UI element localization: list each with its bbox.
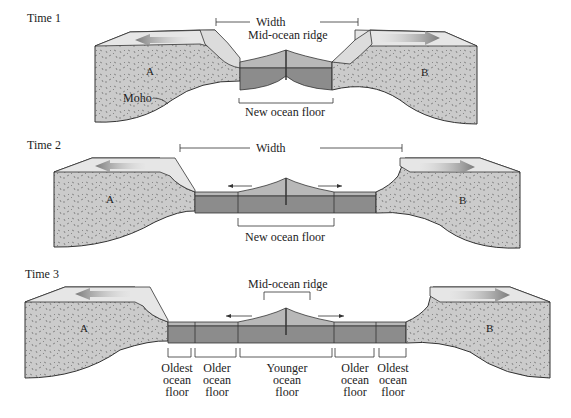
ocean-side-3: [168, 326, 406, 343]
plate-b-label-3: B: [486, 323, 493, 334]
width-label-1: Width: [256, 16, 286, 28]
time-1-label: Time 1: [27, 12, 61, 24]
new-floor-label-1: New ocean floor: [245, 106, 325, 118]
new-floor-label-2: New ocean floor: [245, 231, 325, 243]
diagram-canvas: [0, 0, 571, 418]
plate-b-label-2: B: [459, 195, 466, 206]
plate-b-label-1: B: [421, 67, 428, 78]
floor-age-older-left: Olderoceanfloor: [198, 362, 236, 398]
floor-age-older-right: Olderoceanfloor: [336, 362, 374, 398]
ocean-top-3: [168, 308, 406, 326]
floor-age-oldest-right: Oldestoceanfloor: [372, 362, 414, 398]
plate-a-label-1: A: [146, 66, 154, 77]
floor-age-younger: Youngeroceanfloor: [260, 362, 314, 398]
plate-a-label-2: A: [106, 194, 114, 205]
time-2-label: Time 2: [27, 139, 61, 151]
ridge-label-3: Mid-ocean ridge: [248, 278, 328, 290]
ridge-label-1: Mid-ocean ridge: [248, 29, 328, 41]
floor-age-oldest-left: Oldestoceanfloor: [157, 362, 197, 398]
moho-label: Moho: [123, 92, 152, 104]
time-3-label: Time 3: [25, 268, 59, 280]
plate-a-label-3: A: [80, 323, 88, 334]
width-label-2: Width: [256, 142, 286, 154]
